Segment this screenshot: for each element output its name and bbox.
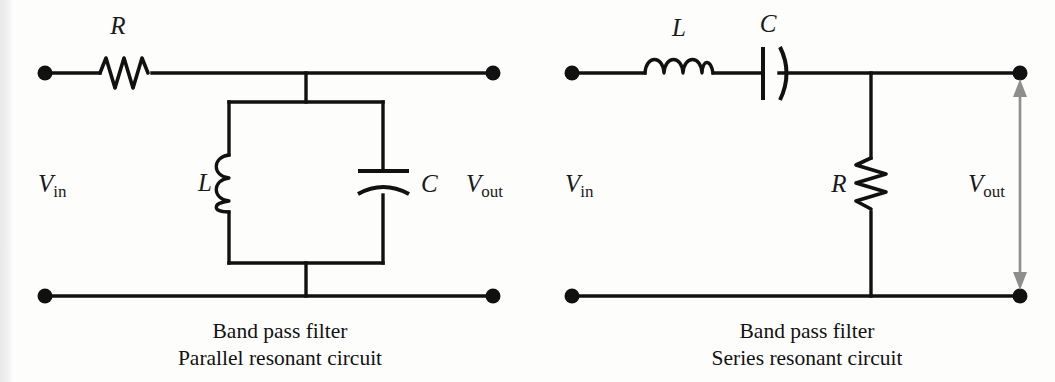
inductor-symbol bbox=[645, 60, 713, 74]
capacitor-symbol bbox=[358, 171, 409, 194]
output-voltage-arrow bbox=[1013, 79, 1027, 290]
terminal-node-input-bottom bbox=[38, 289, 53, 304]
inductor-label: L bbox=[197, 169, 212, 196]
caption-line-1: Band pass filter bbox=[213, 319, 348, 343]
caption-line-1: Band pass filter bbox=[740, 319, 875, 343]
terminal-node-output-top bbox=[1013, 66, 1028, 81]
terminal-node-input-top bbox=[38, 66, 53, 81]
resistor-symbol bbox=[100, 58, 148, 88]
resistor-label: R bbox=[109, 12, 125, 39]
terminal-node-output-bottom bbox=[1013, 289, 1028, 304]
input-voltage-label: Vin bbox=[38, 170, 67, 201]
caption-line-2: Series resonant circuit bbox=[711, 346, 902, 370]
capacitor-label: C bbox=[760, 10, 777, 37]
circuit-series-resonant: L C R Vin bbox=[527, 0, 1055, 382]
output-voltage-label: Vout bbox=[466, 170, 503, 201]
terminal-node-input-top bbox=[565, 66, 580, 81]
output-voltage-label: Vout bbox=[968, 170, 1005, 201]
input-voltage-label: Vin bbox=[565, 170, 594, 201]
circuit-parallel-resonant: R L C Vin bbox=[0, 0, 528, 382]
capacitor-label: C bbox=[421, 170, 438, 197]
terminal-node-output-top bbox=[486, 66, 501, 81]
arrow-head-down bbox=[1013, 272, 1027, 290]
terminal-node-output-bottom bbox=[486, 289, 501, 304]
resistor-label: R bbox=[830, 170, 846, 197]
lc-tank-box bbox=[229, 102, 383, 263]
arrow-head-up bbox=[1013, 79, 1027, 97]
terminal-node-input-bottom bbox=[565, 289, 580, 304]
figure-canvas: R L C Vin bbox=[0, 0, 1055, 382]
inductor-symbol bbox=[216, 155, 229, 212]
resistor-symbol bbox=[856, 158, 886, 209]
inductor-label: L bbox=[671, 14, 686, 41]
caption-line-2: Parallel resonant circuit bbox=[178, 346, 382, 370]
